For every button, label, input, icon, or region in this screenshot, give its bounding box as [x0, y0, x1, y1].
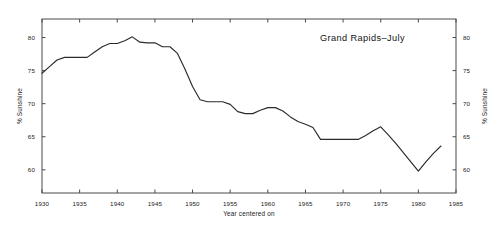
y-tick-label-right: 60 [463, 166, 471, 173]
x-tick-label: 1985 [449, 200, 464, 207]
y-tick-label-left: 80 [28, 34, 36, 41]
x-tick-label: 1945 [148, 200, 163, 207]
x-tick-label: 1975 [374, 200, 389, 207]
y-axis-right-tick-marks [453, 38, 457, 170]
x-tick-label: 1960 [261, 200, 276, 207]
sunshine-data-line [42, 37, 441, 171]
x-axis-tick-marks [42, 19, 456, 193]
x-axis-title: Year centered on [223, 210, 275, 217]
x-tick-label: 1940 [110, 200, 125, 207]
y-axis-left-tick-labels: 6065707580 [28, 34, 36, 173]
x-tick-label: 1935 [72, 200, 87, 207]
sunshine-line-chart: 1930193519401945195019551960196519701975… [0, 0, 502, 236]
y-axis-title-right: % Sunshine [481, 88, 488, 124]
y-tick-label-left: 75 [28, 67, 36, 74]
x-tick-label: 1970 [336, 200, 351, 207]
x-tick-label: 1955 [223, 200, 238, 207]
x-tick-label: 1950 [185, 200, 200, 207]
y-tick-label-right: 70 [463, 100, 471, 107]
chart-title: Grand Rapids–July [320, 33, 405, 43]
y-axis-title-left: % Sunshine [16, 88, 23, 124]
x-tick-label: 1965 [298, 200, 313, 207]
y-axis-left-tick-marks [42, 38, 46, 170]
y-tick-label-right: 65 [463, 133, 471, 140]
chart-figure: 1930193519401945195019551960196519701975… [0, 0, 502, 236]
x-tick-label: 1930 [35, 200, 50, 207]
y-tick-label-right: 80 [463, 34, 471, 41]
plot-frame [42, 19, 456, 193]
y-tick-label-left: 70 [28, 100, 36, 107]
y-tick-label-right: 75 [463, 67, 471, 74]
x-axis-tick-labels: 1930193519401945195019551960196519701975… [35, 200, 464, 207]
x-tick-label: 1980 [411, 200, 426, 207]
y-tick-label-left: 65 [28, 133, 36, 140]
y-axis-right-tick-labels: 6065707580 [463, 34, 471, 173]
y-tick-label-left: 60 [28, 166, 36, 173]
